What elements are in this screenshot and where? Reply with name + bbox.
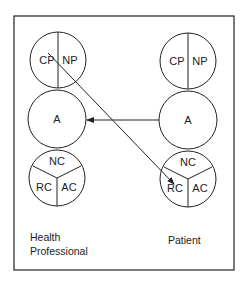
health-professional-ego-states: CP NP A NC RC AC Health Professional <box>28 32 88 257</box>
left-a-label: A <box>53 113 61 125</box>
left-top-circle: CP NP <box>30 32 86 88</box>
left-ac-label: AC <box>61 181 76 193</box>
right-ac-label: AC <box>192 182 207 194</box>
health-professional-caption-line1: Health <box>30 231 61 243</box>
right-np-label: NP <box>192 55 207 67</box>
right-bottom-circle: NC RC AC <box>160 151 216 207</box>
left-cp-label: CP <box>39 54 54 66</box>
right-nc-label: NC <box>180 156 196 168</box>
left-bottom-circle: NC RC AC <box>29 150 85 206</box>
patient-caption: Patient <box>168 234 201 246</box>
left-middle-circle: A <box>28 90 86 148</box>
right-rc-label: RC <box>167 182 183 194</box>
right-a-label: A <box>184 114 192 126</box>
transactional-analysis-diagram: CP NP A NC RC AC Health Professional CP … <box>0 0 244 289</box>
left-rc-label: RC <box>36 181 52 193</box>
patient-ego-states: CP NP A NC RC AC Patient <box>159 33 217 246</box>
right-cp-label: CP <box>169 55 184 67</box>
left-nc-label: NC <box>49 155 65 167</box>
health-professional-caption-line2: Professional <box>30 245 88 257</box>
right-middle-circle: A <box>159 91 217 149</box>
arrow-professional-cp-to-patient-rc <box>48 53 174 184</box>
right-top-circle: CP NP <box>160 33 216 89</box>
left-np-label: NP <box>62 54 77 66</box>
